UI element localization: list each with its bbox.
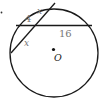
stray-dot	[1, 12, 3, 14]
center-point	[52, 48, 55, 51]
label-center-o: O	[54, 52, 62, 63]
circle-diagram: 4 x x 16 O	[0, 0, 102, 101]
label-segment-x-bottom: x	[24, 38, 29, 48]
label-segment-4: 4	[25, 13, 31, 24]
label-segment-x-top: x	[37, 6, 42, 16]
label-segment-16: 16	[59, 28, 72, 39]
